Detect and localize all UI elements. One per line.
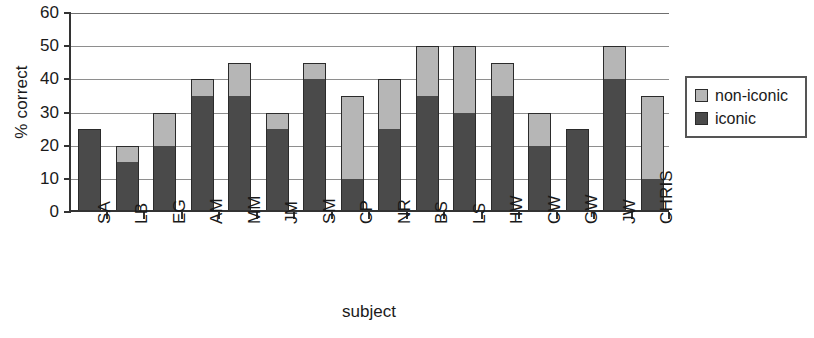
bar-stack[interactable] — [266, 113, 289, 212]
y-axis-tick-label: 30 — [21, 104, 59, 121]
legend-item-iconic: iconic — [695, 107, 798, 130]
bar-segment-non-iconic[interactable] — [153, 113, 176, 146]
x-axis-tick-label-am: AM — [207, 198, 227, 224]
x-axis-tick-label-lb: LB — [132, 203, 152, 224]
y-axis-tick-mark — [64, 45, 71, 47]
bar-segment-non-iconic[interactable] — [378, 79, 401, 129]
bar-chart-figure: % correct 0102030405060 SALBEGAMMMJMSMCP… — [0, 0, 814, 338]
bar-slot — [559, 13, 597, 212]
x-axis-tick-label-cp: CP — [357, 200, 377, 224]
x-axis-tick-label-eg: EG — [170, 199, 190, 224]
bar-segment-non-iconic[interactable] — [641, 96, 664, 179]
bar-slot — [146, 13, 184, 212]
x-axis-tick-label-nr: NR — [395, 199, 415, 224]
bar-stack[interactable] — [153, 113, 176, 212]
bar-slot — [484, 13, 522, 212]
y-axis-tick-mark — [64, 78, 71, 80]
bar-stack[interactable] — [341, 96, 364, 212]
bar-segment-iconic[interactable] — [453, 113, 476, 213]
bar-segment-non-iconic[interactable] — [453, 46, 476, 112]
y-axis-tick-mark — [64, 12, 71, 14]
bar-slot — [596, 13, 634, 212]
y-axis-tick-mark — [64, 211, 71, 213]
y-axis-tick-mark — [64, 145, 71, 147]
bar-stack[interactable] — [78, 129, 101, 212]
legend-swatch-non-iconic-icon — [695, 89, 708, 102]
plot-area — [69, 13, 669, 212]
bar-segment-iconic[interactable] — [191, 96, 214, 212]
plot-inner — [71, 13, 669, 212]
bar-segment-non-iconic[interactable] — [528, 113, 551, 146]
y-axis-tick-label: 20 — [21, 137, 59, 154]
bar-slot — [446, 13, 484, 212]
x-axis-tick-label-hw: HW — [507, 195, 527, 224]
x-axis-tick-label-mm: MM — [245, 195, 265, 224]
bar-segment-iconic[interactable] — [603, 79, 626, 212]
x-axis-tick-label-ls: LS — [470, 203, 490, 224]
bar-slot — [109, 13, 147, 212]
bar-segment-non-iconic[interactable] — [416, 46, 439, 96]
bar-slot — [409, 13, 447, 212]
y-axis-tick-label: 50 — [21, 37, 59, 54]
bar-slot — [221, 13, 259, 212]
y-axis-tick-label: 40 — [21, 70, 59, 87]
x-axis-tick-label-bs: BS — [432, 201, 452, 224]
x-axis-tick-label-jm: JM — [282, 201, 302, 224]
x-axis-tick-label-sm: SM — [320, 198, 340, 224]
bar-segment-iconic[interactable] — [416, 96, 439, 212]
bar-stack[interactable] — [191, 79, 214, 212]
bar-stack[interactable] — [603, 46, 626, 212]
chart-legend: non-iconic iconic — [685, 76, 807, 138]
legend-label-non-iconic: non-iconic — [715, 88, 788, 104]
bar-segment-non-iconic[interactable] — [228, 63, 251, 96]
bar-stack[interactable] — [416, 46, 439, 212]
bar-segment-non-iconic[interactable] — [191, 79, 214, 96]
legend-label-iconic: iconic — [715, 111, 756, 127]
bar-segment-iconic[interactable] — [78, 129, 101, 212]
legend-swatch-iconic-icon — [695, 112, 708, 125]
legend-item-non-iconic: non-iconic — [695, 84, 798, 107]
x-axis-tick-label-sa: SA — [95, 201, 115, 224]
x-axis-title: subject — [69, 302, 669, 322]
y-axis-tick-label: 10 — [21, 170, 59, 187]
bar-segment-iconic[interactable] — [303, 79, 326, 212]
y-axis-tick-label: 0 — [21, 203, 59, 220]
bar-segment-iconic[interactable] — [266, 129, 289, 212]
bar-stack[interactable] — [491, 63, 514, 212]
bar-slot — [184, 13, 222, 212]
bars-layer — [71, 13, 669, 212]
y-axis-tick-mark — [64, 178, 71, 180]
bar-stack[interactable] — [378, 79, 401, 212]
bar-segment-non-iconic[interactable] — [491, 63, 514, 96]
bar-stack[interactable] — [453, 46, 476, 212]
bar-slot — [71, 13, 109, 212]
bar-segment-non-iconic[interactable] — [303, 63, 326, 80]
x-axis-tick-label-cw: CW — [545, 195, 565, 224]
bar-segment-non-iconic[interactable] — [341, 96, 364, 179]
x-axis-tick-label-chris: CHRIS — [657, 170, 677, 224]
y-axis-tick-label: 60 — [21, 4, 59, 21]
bar-stack[interactable] — [228, 63, 251, 212]
y-axis-tick-mark — [64, 112, 71, 114]
bar-segment-non-iconic[interactable] — [266, 113, 289, 130]
bar-segment-non-iconic[interactable] — [603, 46, 626, 79]
bar-slot — [296, 13, 334, 212]
bar-slot — [371, 13, 409, 212]
bar-slot — [259, 13, 297, 212]
x-axis-tick-label-jw: JW — [620, 199, 640, 224]
bar-slot — [334, 13, 372, 212]
bar-stack[interactable] — [303, 63, 326, 212]
x-axis-tick-label-gw: GW — [582, 194, 602, 224]
bar-segment-non-iconic[interactable] — [116, 146, 139, 163]
bar-slot — [521, 13, 559, 212]
